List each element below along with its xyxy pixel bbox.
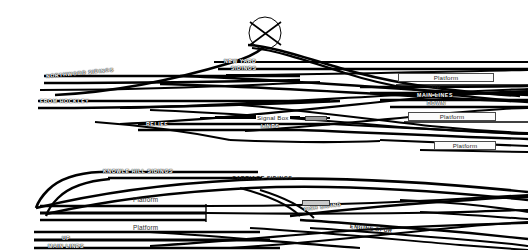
mid-line-right-2 xyxy=(206,210,528,214)
label-knowle-hill-sidings: KNOWLE HILL SIDINGS xyxy=(103,169,173,174)
lower-right-converge-2 xyxy=(420,212,528,219)
track-diagram: NORTHWOOD SIDINGS FROM HOCKLEY NEW YARD … xyxy=(0,0,528,250)
signal-box-marker xyxy=(305,116,327,121)
label-down-main: DOWN xyxy=(427,101,446,106)
label-relief: RELIEF xyxy=(146,122,168,127)
lower-track-group xyxy=(34,172,528,250)
label-up-main: UP xyxy=(432,85,441,90)
mid-line-right-1 xyxy=(206,195,528,206)
label-main-lines-lower: MAIN LINES xyxy=(48,244,84,249)
label-new-yard-sidings: SIDINGS xyxy=(231,66,257,71)
fish-siding-marker xyxy=(302,200,330,206)
lower-right-line-4 xyxy=(420,150,528,152)
platform-upper-2: Platform xyxy=(408,112,496,121)
platform-lower-2: Platform xyxy=(133,224,158,231)
label-from-hockley: FROM HOCKLEY xyxy=(40,99,89,104)
label-signal-box: Signal Box xyxy=(256,115,290,121)
upper-track-group xyxy=(38,17,528,152)
label-new-yard: NEW YARD xyxy=(224,59,256,64)
platform-lower-1: Platform xyxy=(133,196,158,203)
label-lines: LINES xyxy=(261,124,279,129)
platform-upper-3: Platform xyxy=(434,141,496,150)
label-up-lower: UP xyxy=(62,236,70,241)
platform-upper-1: Platform xyxy=(398,73,494,82)
down-steep-left-2 xyxy=(230,140,380,142)
label-main-lines: MAIN LINES xyxy=(417,93,453,98)
main-line-up xyxy=(360,86,528,87)
label-carriage-sidings: CARRIAGE SIDINGS xyxy=(232,176,292,181)
